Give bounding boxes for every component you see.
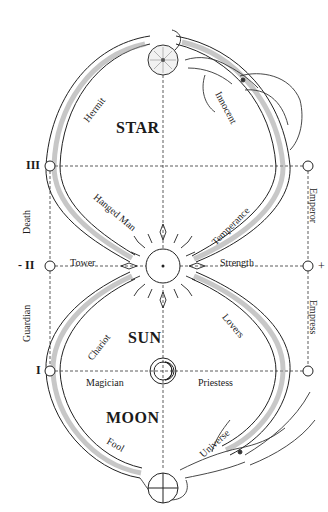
dragon-body-lower (46, 272, 290, 478)
card-priestess: Priestess (198, 378, 233, 388)
node-right-2 (303, 261, 313, 271)
card-strength: Strength (220, 258, 254, 268)
label-emperor: Emperor (308, 188, 318, 223)
level-2-label: - II (18, 259, 34, 271)
earth-cross-icon (148, 473, 178, 503)
region-moon: MOON (106, 410, 160, 426)
figure-eight-diagram (0, 0, 328, 512)
region-star: STAR (116, 120, 160, 136)
node-right-1 (303, 366, 313, 376)
node-left-2 (45, 261, 55, 271)
plus-sign: + (318, 260, 325, 272)
region-sun: SUN (128, 330, 162, 346)
node-left-1 (45, 366, 55, 376)
node-right-3 (303, 161, 313, 171)
label-guardian: Guardian (22, 305, 32, 342)
level-1-label: I (36, 364, 41, 376)
label-empress: Empress (308, 300, 318, 334)
level-3-label: III (26, 159, 40, 171)
node-left-3 (45, 161, 55, 171)
card-tower: Tower (70, 258, 95, 268)
star-disc-icon (148, 30, 181, 75)
card-magician: Magician (86, 378, 124, 388)
label-death: Death (22, 210, 32, 234)
